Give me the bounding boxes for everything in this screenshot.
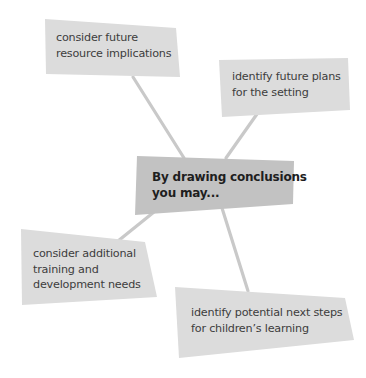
connector-top-right [226,114,257,158]
node-bottom-left: consider additional training and develop… [33,246,141,293]
connector-bottom-right [222,208,248,291]
connector-bottom-left [118,212,154,241]
node-text-line: identify future plans [232,69,341,85]
center-text-line: By drawing conclusions [152,169,307,185]
node-bottom-right: identify potential next steps for childr… [191,305,343,336]
node-text-line: for children’s learning [191,321,343,337]
node-top-left: consider future resource implications [56,30,171,61]
connector-top-left [133,77,184,158]
node-text-line: for the setting [232,85,341,101]
center-text-line: you may... [152,185,307,201]
node-text-line: identify potential next steps [191,305,343,321]
center-node: By drawing conclusions you may... [152,169,307,201]
node-text-line: development needs [33,277,141,293]
node-text-line: resource implications [56,46,171,62]
node-top-right: identify future plans for the setting [232,69,341,100]
node-text-line: consider additional [33,246,141,262]
node-text-line: training and [33,262,141,278]
node-text-line: consider future [56,30,171,46]
